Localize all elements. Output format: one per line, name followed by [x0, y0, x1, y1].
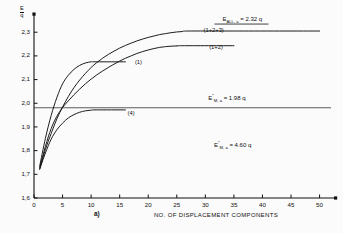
x-tick-label: 50	[312, 202, 328, 208]
y-tick-label: 2,3	[12, 29, 30, 35]
reference-line-label: E*M, a = 1.98 q	[208, 94, 245, 103]
series-label: (4)	[128, 111, 135, 117]
y-tick-label: 2,2	[12, 52, 30, 58]
x-tick-label: 20	[140, 202, 156, 208]
series-label: (1+2+3)	[203, 28, 223, 34]
y-tick-label: 1,7	[12, 171, 30, 177]
x-axis-title: NO. OF DISPLACEMENT COMPONENTS	[154, 212, 278, 218]
x-tick-label: 30	[197, 202, 213, 208]
chart-annotation: E*M, a = 4.60 q	[214, 141, 251, 150]
series-label: (1)	[135, 60, 142, 66]
y-tick-label: 2,1	[12, 76, 30, 82]
y-tick-label: 1,8	[12, 147, 30, 153]
y-tick-label: 1,6	[12, 195, 30, 201]
chart-figure: 1,61,71,81,92,02,12,22,30510152025303540…	[0, 0, 343, 233]
x-tick-label: 25	[169, 202, 185, 208]
x-tick-label: 0	[26, 202, 42, 208]
x-tick-label: 5	[55, 202, 71, 208]
y-tick-label: 2,0	[12, 100, 30, 106]
x-tick-label: 10	[83, 202, 99, 208]
series-curve	[40, 31, 320, 169]
x-tick-label: 15	[112, 202, 128, 208]
x-tick-label: 40	[254, 202, 270, 208]
y-tick-label: 1,9	[12, 124, 30, 130]
chart-annotation: EALL, a = 2.32 q	[222, 16, 262, 24]
series-curve	[40, 110, 126, 169]
y-axis-title: Eq	[20, 6, 24, 19]
y-axis-arrow	[32, 13, 35, 16]
plot-canvas	[0, 0, 343, 233]
series-label: (1+2)	[209, 45, 223, 51]
series-curve	[40, 62, 126, 166]
x-tick-label: 45	[283, 202, 299, 208]
panel-label: a)	[94, 211, 100, 217]
x-axis-arrow	[334, 196, 337, 199]
x-tick-label: 35	[226, 202, 242, 208]
